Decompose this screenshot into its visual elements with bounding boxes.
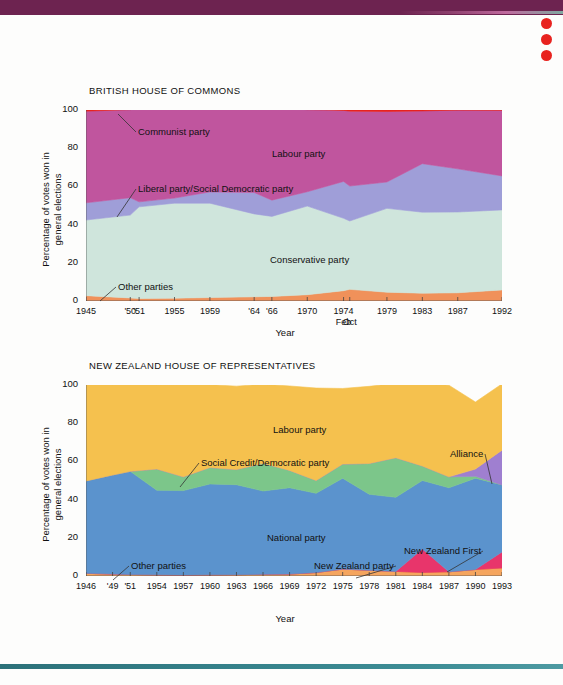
- band-label-new-zealand-party: New Zealand party: [314, 560, 394, 571]
- band-label-other-parties: Other parties: [131, 560, 186, 571]
- band-label-social-credit-democratic-party: Social Credit/Democratic party: [201, 457, 329, 468]
- chart-2-title: NEW ZEALAND HOUSE OF REPRESENTATIVES: [89, 360, 316, 371]
- y-tick-label: 20: [56, 531, 78, 542]
- y-tick-label: 100: [56, 378, 78, 389]
- band-label-new-zealand-first: New Zealand First: [404, 545, 481, 556]
- band-label-alliance: Alliance: [450, 448, 483, 459]
- chart-2-y-axis-title: Percentage of votes won ingeneral electi…: [40, 425, 63, 545]
- y-tick-label: 60: [56, 454, 78, 465]
- page-root: BRITISH HOUSE OF COMMONS Percentage of v…: [0, 0, 563, 685]
- band-label-national-party: National party: [267, 532, 326, 543]
- chart-new-zealand-house-of-representatives: NEW ZEALAND HOUSE OF REPRESENTATIVES Per…: [0, 0, 563, 685]
- y-tick-label: 80: [56, 416, 78, 427]
- band-label-labour-party: Labour party: [273, 424, 326, 435]
- bottom-decorative-band: [0, 664, 563, 669]
- x-tick-label: 1993: [482, 581, 522, 591]
- y-tick-label: 0: [56, 569, 78, 580]
- y-tick-label: 40: [56, 493, 78, 504]
- chart-2-x-axis-title: Year: [255, 613, 315, 624]
